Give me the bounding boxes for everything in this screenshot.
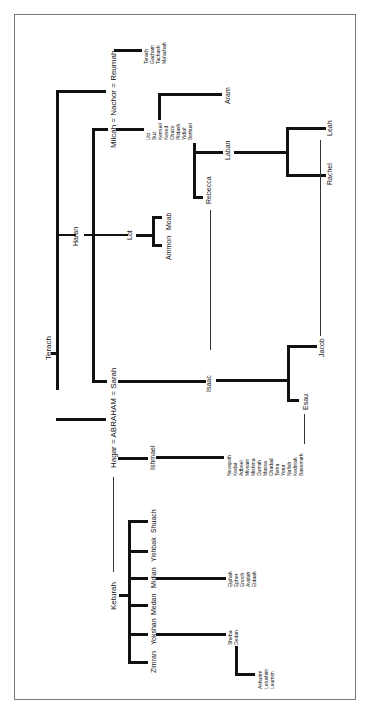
laban-connector <box>193 151 223 154</box>
person-aram: Aram <box>224 87 231 104</box>
dedan-children-list: Ashurim Letushim Leumim <box>257 669 275 689</box>
ishmael-children-list: Nevayoth Kedar Adbeel Mivsam Mishma Duma… <box>226 453 304 476</box>
kemuel-aram-vertical <box>158 93 161 120</box>
person-lot: Lot <box>126 230 133 240</box>
sarah-connector <box>92 380 107 383</box>
abraham-sarah-branch <box>92 128 95 380</box>
person-leah: Leah <box>326 120 333 136</box>
nachor-connector <box>56 90 106 93</box>
jacob-wives-line <box>320 140 321 336</box>
person-rebecca: Rebecca <box>205 176 212 204</box>
person-moab: Moab <box>165 212 172 230</box>
person-ammon: Ammon <box>165 236 172 260</box>
yokshan-children-list: Sheba Dedan <box>227 630 239 645</box>
haran-lot-connector <box>84 234 128 236</box>
zimran-connector <box>128 661 148 664</box>
person-rachel: Rachel <box>326 163 333 185</box>
child-name: Leumim <box>269 669 275 689</box>
ishmael-children-connector <box>156 456 224 459</box>
reumah-children-list: Terach Gacham Tachash Ma'achah <box>143 42 167 64</box>
reumah-children-connector <box>114 49 142 52</box>
terach-abraham-connector <box>56 418 106 421</box>
ammon-connector <box>152 244 162 247</box>
isaac-sons-branch <box>287 345 290 402</box>
person-ishmael: Ishmael <box>149 445 156 470</box>
person-keturah: Keturah <box>110 582 118 610</box>
rebecca-connector <box>193 196 203 199</box>
dedan-children-connector <box>235 673 255 676</box>
kemuel-aram-connector <box>158 93 222 96</box>
isaac-connector-left <box>118 380 206 383</box>
person-yokshan: Yokshan <box>150 618 157 645</box>
milcah-children-connector <box>116 128 144 131</box>
person-haran: Haran <box>72 227 79 246</box>
midian-children-connector <box>156 577 226 580</box>
ishmael-connector <box>118 457 148 460</box>
isaac-connector-right <box>216 379 289 382</box>
yishbak-connector <box>128 550 148 553</box>
person-medan: Medan <box>150 594 157 615</box>
dedan-children-vertical <box>235 646 238 674</box>
abraham-keturah-marriage-line <box>113 477 114 572</box>
terach-nachor-branch <box>56 90 59 390</box>
laban-daughters-connector <box>234 151 288 154</box>
marriage-line-abraham: Hagar = ABRAHAM = Sarah <box>110 368 118 469</box>
leah-connector <box>286 127 326 130</box>
person-isaac: Isaac <box>205 375 212 392</box>
esau-basemath-marriage-line <box>304 414 305 444</box>
keturah-children-branch <box>128 520 131 663</box>
shuach-connector <box>128 520 148 523</box>
child-name: Dedan <box>233 630 239 645</box>
yokshan-children-connector <box>156 633 226 636</box>
yokshan-connector <box>128 633 148 636</box>
lot-children-branch <box>152 216 155 246</box>
midian-connector <box>128 577 148 580</box>
jacob-connector <box>287 345 317 348</box>
person-zimran: Zimran <box>150 651 157 673</box>
rebecca-isaac-marriage-line <box>210 210 211 350</box>
diagram-frame <box>14 14 356 700</box>
person-shuach: Shuach <box>150 509 157 533</box>
marriage-line-nachor: Milcah = Nachor = Reumah <box>110 51 118 148</box>
terach-connector <box>51 352 58 355</box>
esau-connector <box>287 399 299 402</box>
person-yishbak: Yishbak <box>150 537 157 562</box>
person-esau: Esau <box>302 394 309 410</box>
midian-children-list: Eiphah Epher Enoch Avidah Eldaah <box>227 571 257 587</box>
child-name: Bethuel <box>187 123 193 140</box>
child-name: Basemath <box>298 453 304 476</box>
person-jacob: Jacob <box>318 338 325 357</box>
medan-connector <box>128 604 148 607</box>
person-terach: Terach <box>45 336 53 360</box>
milcah-children-list: Utz Buz Kemuel Kesed Chazo Pildash Yidla… <box>145 123 193 140</box>
child-name: Ma'achah <box>161 42 167 64</box>
laban-daughters-branch <box>286 127 289 176</box>
moab-connector <box>152 216 162 219</box>
person-laban: Laban <box>224 141 231 160</box>
milcah-connector <box>92 128 108 131</box>
child-name: Eldaah <box>251 571 257 587</box>
